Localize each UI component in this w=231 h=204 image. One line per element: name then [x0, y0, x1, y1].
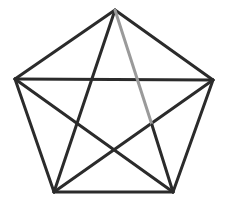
- edge-e-c: [15, 79, 173, 192]
- pentagram-diagram: [0, 0, 231, 204]
- edge-a-c-light: [115, 10, 152, 125]
- edge-d-e: [15, 79, 54, 192]
- edge-b-c: [173, 80, 213, 192]
- edge-e-b: [15, 79, 213, 80]
- edge-a-b: [115, 10, 213, 80]
- edge-a-c-dark: [152, 125, 173, 192]
- edge-d-b: [54, 80, 213, 192]
- edge-a-d: [54, 10, 115, 192]
- edge-e-a: [15, 10, 115, 79]
- diagram-svg: [0, 0, 231, 204]
